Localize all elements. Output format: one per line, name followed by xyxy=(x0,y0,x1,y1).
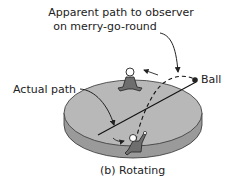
merry-go-round-diagram: Apparent path to observer on merry-go-ro… xyxy=(0,0,236,185)
observer-top-head xyxy=(126,68,134,76)
ball-icon xyxy=(192,77,198,83)
apparent-path-label-line2: on merry-go-round xyxy=(50,20,160,33)
observer-bottom-hand xyxy=(143,131,146,134)
actual-path-label: Actual path xyxy=(13,83,76,96)
apparent-path-leader xyxy=(160,33,178,72)
observer-top-figure xyxy=(118,68,142,91)
ball-label: Ball xyxy=(201,73,221,86)
apparent-path-label-line1: Apparent path to observer xyxy=(36,6,206,19)
caption: (b) Rotating xyxy=(100,164,165,177)
rotation-arrow-top xyxy=(144,70,158,75)
observer-bottom-head xyxy=(130,135,137,142)
